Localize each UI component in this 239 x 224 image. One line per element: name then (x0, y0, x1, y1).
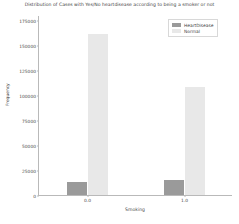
y-axis-tick-label: 100000 (19, 94, 36, 99)
y-axis-label: Frequency (5, 83, 10, 106)
bar-normal-1.0 (185, 87, 205, 195)
bar-heartdisease-0.0 (67, 182, 87, 195)
y-axis-tick-label: 150000 (19, 44, 36, 49)
chart-legend: HeartDiseaseNormal (168, 19, 218, 37)
legend-swatch-heartdisease (172, 23, 181, 27)
bars-layer (39, 16, 232, 195)
legend-label: Normal (184, 29, 200, 34)
chart-title: Distribution of Cases with Yes/No heartd… (0, 2, 239, 8)
y-axis-tick-mark (37, 196, 39, 197)
bar-normal-0.0 (88, 34, 108, 195)
legend-label: HeartDisease (184, 23, 214, 28)
x-axis-tick-label: 1.0 (181, 198, 188, 203)
y-axis-tick-label: 25000 (22, 169, 36, 174)
bar-chart-figure: Distribution of Cases with Yes/No heartd… (0, 0, 239, 224)
y-axis-tick-label: 75000 (22, 119, 36, 124)
y-axis-tick-label: 0 (33, 194, 36, 199)
plot-area: 0250005000075000100000125000150000175000… (38, 16, 232, 196)
y-axis-tick-label: 175000 (19, 19, 36, 24)
x-axis-tick-label: 0.0 (84, 198, 91, 203)
x-axis-tick-mark (87, 195, 88, 197)
y-axis-tick-label: 125000 (19, 69, 36, 74)
legend-item-normal[interactable]: Normal (172, 28, 214, 34)
y-axis-tick-label: 50000 (22, 144, 36, 149)
legend-swatch-normal (172, 29, 181, 33)
x-axis-label: Smoking (38, 207, 232, 213)
bar-heartdisease-1.0 (164, 180, 184, 196)
x-axis-tick-mark (184, 195, 185, 197)
